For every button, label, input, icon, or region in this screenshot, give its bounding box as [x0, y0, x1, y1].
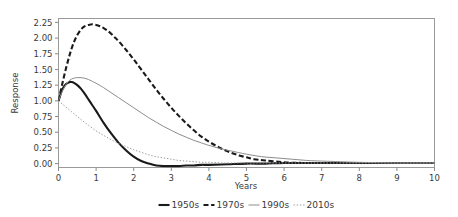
- legend-label-2010s[interactable]: 2010s: [307, 200, 335, 210]
- y-tick-label: 1.50: [34, 65, 53, 75]
- y-tick-label: 0.25: [34, 143, 53, 153]
- y-tick-label: 0.75: [34, 112, 53, 122]
- series-clip-group: [59, 24, 435, 166]
- series-line-1970s: [59, 24, 435, 163]
- chart-figure: 012345678910 0.000.250.500.751.001.251.5…: [0, 0, 458, 217]
- chart-legend: 1950s1970s1990s2010s: [159, 200, 335, 210]
- y-axis-ticks: 0.000.250.500.751.001.251.501.752.002.25: [34, 18, 59, 169]
- x-tick-label: 1: [93, 173, 98, 183]
- legend-label-1990s[interactable]: 1990s: [262, 200, 290, 210]
- y-tick-label: 1.75: [34, 49, 53, 59]
- x-axis-title: Years: [234, 181, 258, 191]
- x-tick-label: 6: [281, 173, 286, 183]
- y-tick-label: 2.00: [34, 33, 53, 43]
- series-line-1950s: [59, 82, 435, 166]
- x-tick-label: 0: [56, 173, 61, 183]
- x-tick-label: 2: [131, 173, 136, 183]
- x-tick-label: 9: [394, 173, 399, 183]
- y-tick-label: 0.50: [34, 127, 53, 137]
- x-tick-label: 4: [206, 173, 211, 183]
- x-tick-label: 7: [319, 173, 324, 183]
- legend-label-1970s[interactable]: 1970s: [217, 200, 245, 210]
- x-tick-label: 10: [429, 173, 440, 183]
- legend-label-1950s[interactable]: 1950s: [172, 200, 200, 210]
- series-lines: [59, 24, 435, 166]
- x-tick-label: 8: [357, 173, 362, 183]
- plot-frame: [59, 19, 435, 168]
- y-tick-label: 2.25: [34, 18, 53, 28]
- y-tick-label: 1.25: [34, 80, 53, 90]
- chart-canvas: 012345678910 0.000.250.500.751.001.251.5…: [0, 0, 458, 217]
- y-tick-label: 1.00: [34, 96, 53, 106]
- x-tick-label: 3: [169, 173, 174, 183]
- y-axis-title: Response: [10, 73, 20, 114]
- series-line-1990s: [59, 78, 435, 163]
- y-tick-label: 0.00: [34, 159, 53, 169]
